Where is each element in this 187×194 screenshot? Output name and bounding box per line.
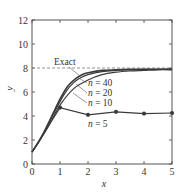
x-tick-label: 2 [86,166,91,177]
y-tick-label: 0 [23,159,28,170]
label-n40: n = 40 [88,78,113,88]
y-tick-label: 4 [23,111,28,122]
label-n40-rest: = 40 [93,78,113,88]
x-tick-label: 4 [142,166,147,177]
x-axis-title: x [101,178,107,189]
label-n20: n = 20 [88,88,113,98]
y-tick-label: 10 [18,39,28,50]
marker-n5 [114,110,118,114]
leader-n20 [76,84,87,93]
x-tick-label: 0 [30,166,35,177]
y-tick-label: 8 [23,63,28,74]
chart: 012345024681012xy Exact n = 40 n = 20 n … [0,0,187,194]
x-tick-label: 3 [114,166,119,177]
marker-n5 [86,113,90,117]
marker-n5 [58,106,62,110]
label-exact: Exact [54,57,76,67]
x-tick-label: 1 [58,166,63,177]
y-tick-label: 12 [18,15,28,26]
y-tick-label: 2 [23,135,28,146]
marker-n5 [142,112,146,116]
leader-n40 [77,77,87,83]
y-tick-label: 6 [23,87,28,98]
leader-n10 [73,93,87,103]
label-n10: n = 10 [88,98,113,108]
marker-n5 [170,111,174,115]
y-axis-title: y [4,86,15,92]
label-n5: n = 5 [88,119,108,129]
x-tick-label: 5 [170,166,175,177]
